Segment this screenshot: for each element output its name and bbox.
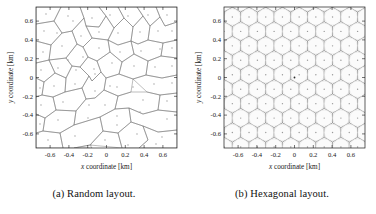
y-tick-b-3: 0 <box>218 74 222 81</box>
y-tick-labels-b: 0.6 0.4 0.2 0 -0.2 -0.4 -0.6 <box>211 17 222 137</box>
x-tick-a-1: -0.4 <box>64 151 75 158</box>
panel-random-layout: -0.6 -0.4 -0.2 0 0.2 0.4 0.6 0.6 0.4 0.2… <box>0 0 188 214</box>
x-tick-a-3: 0 <box>105 151 109 158</box>
x-tick-b-1: -0.4 <box>252 151 263 158</box>
y-tick-a-5: -0.4 <box>23 111 34 118</box>
x-tick-a-6: 0.6 <box>159 151 168 158</box>
y-tick-a-0: 0.6 <box>25 17 34 24</box>
figure-container: -0.6 -0.4 -0.2 0 0.2 0.4 0.6 0.6 0.4 0.2… <box>0 0 376 214</box>
caption-hexagonal-layout: (b) Hexagonal layout. <box>188 188 376 199</box>
y-tick-b-2: 0.2 <box>213 55 221 62</box>
y-tick-b-5: -0.4 <box>211 111 222 118</box>
y-tick-a-4: -0.2 <box>23 93 33 100</box>
x-tick-a-4: 0.2 <box>121 151 129 158</box>
x-tick-b-0: -0.6 <box>233 151 244 158</box>
y-tick-a-3: 0 <box>30 74 34 81</box>
y-tick-b-4: -0.2 <box>211 93 221 100</box>
x-axis-title-a: x coordinate [km] <box>80 163 132 171</box>
y-tick-b-6: -0.6 <box>211 130 222 137</box>
x-tick-b-6: 0.6 <box>347 151 356 158</box>
x-tick-labels-b: -0.6 -0.4 -0.2 0 0.2 0.4 0.6 <box>233 151 356 158</box>
x-tick-a-5: 0.4 <box>140 151 149 158</box>
y-tick-labels-a: 0.6 0.4 0.2 0 -0.2 -0.4 -0.6 <box>23 17 34 137</box>
caption-random-layout: (a) Random layout. <box>0 188 188 199</box>
hexagonal-layout-plot: -0.6 -0.4 -0.2 0 0.2 0.4 0.6 0.6 0.4 0.2… <box>188 0 376 214</box>
center-site-marker <box>294 77 296 79</box>
x-tick-labels-a: -0.6 -0.4 -0.2 0 0.2 0.4 0.6 <box>45 151 168 158</box>
random-layout-plot: -0.6 -0.4 -0.2 0 0.2 0.4 0.6 0.6 0.4 0.2… <box>0 0 188 214</box>
y-tick-a-1: 0.4 <box>25 36 34 43</box>
y-tick-b-0: 0.6 <box>213 17 222 24</box>
y-tick-a-2: 0.2 <box>25 55 33 62</box>
hexagon-tessellation <box>207 0 374 157</box>
plot-background-a <box>36 7 177 148</box>
x-tick-b-4: 0.2 <box>309 151 317 158</box>
y-tick-a-6: -0.6 <box>23 130 34 137</box>
x-tick-b-3: 0 <box>293 151 297 158</box>
x-tick-b-5: 0.4 <box>328 151 337 158</box>
x-tick-b-2: -0.2 <box>270 151 280 158</box>
x-axis-title-b: x coordinate [km] <box>268 163 320 171</box>
y-axis-title-a: y coordinate [km] <box>7 52 15 104</box>
panel-hexagonal-layout: -0.6 -0.4 -0.2 0 0.2 0.4 0.6 0.6 0.4 0.2… <box>188 0 376 214</box>
x-tick-a-2: -0.2 <box>82 151 92 158</box>
x-tick-a-0: -0.6 <box>45 151 56 158</box>
y-tick-b-1: 0.4 <box>213 36 222 43</box>
y-axis-title-b: y coordinate [km] <box>195 52 203 104</box>
